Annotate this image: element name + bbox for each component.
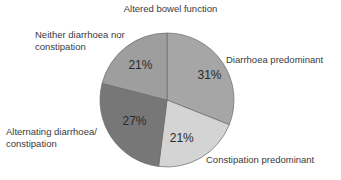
slice-constipation-value: 21%	[170, 131, 194, 145]
slice-alternating-value: 27%	[123, 114, 147, 128]
slice-diarrhoea-value: 31%	[197, 68, 221, 82]
label-neither-line2: constipation	[35, 41, 125, 53]
label-diarrhoea: Diarrhoea predominant	[226, 54, 323, 66]
label-neither-line1: Neither diarrhoea nor	[35, 29, 125, 41]
label-alternating: Alternating diarrhoea/ constipation	[6, 126, 97, 150]
label-alternating-line2: constipation	[6, 138, 97, 150]
label-constipation: Constipation predominant	[206, 154, 314, 166]
slice-neither-value: 21%	[128, 58, 152, 72]
pie-chart: 31%21%27%21%	[0, 0, 341, 180]
label-neither: Neither diarrhoea nor constipation	[35, 29, 125, 53]
label-alternating-line1: Alternating diarrhoea/	[6, 126, 97, 138]
